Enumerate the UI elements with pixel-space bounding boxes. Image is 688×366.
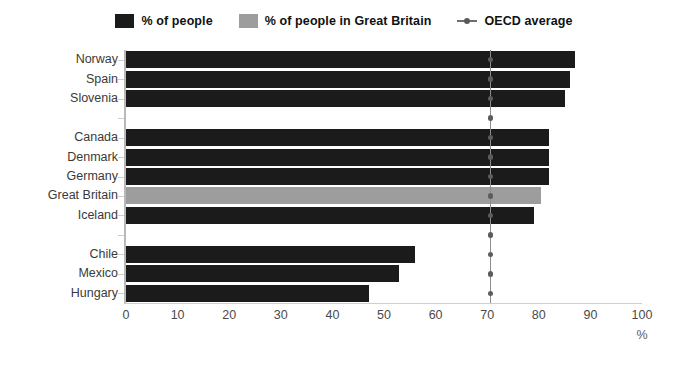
bar-germany[interactable] xyxy=(126,168,549,185)
bar-norway[interactable] xyxy=(126,51,575,68)
category-label-great-britain: Great Britain xyxy=(12,187,118,204)
x-axis-tick-label-50: 50 xyxy=(377,308,391,322)
x-axis-tick-label-90: 90 xyxy=(583,308,597,322)
y-axis-tick xyxy=(118,118,124,119)
oecd-average-marker xyxy=(488,154,494,160)
oecd-average-marker xyxy=(488,115,494,121)
bar-great-britain[interactable] xyxy=(126,187,541,204)
y-axis-tick xyxy=(118,215,124,216)
legend-item-percent-of-people[interactable]: % of people xyxy=(115,14,212,28)
legend-label: % of people in Great Britain xyxy=(265,14,432,28)
category-label-spain: Spain xyxy=(12,71,118,88)
category-label-hungary: Hungary xyxy=(12,285,118,302)
x-axis-tick-label-30: 30 xyxy=(274,308,288,322)
category-label-slovenia: Slovenia xyxy=(12,90,118,107)
chart-legend: % of people % of people in Great Britain… xyxy=(0,14,688,28)
chart-container: % of people % of people in Great Britain… xyxy=(0,0,688,366)
y-axis-tick xyxy=(118,235,124,236)
y-axis-tick xyxy=(118,79,124,80)
y-axis-tick xyxy=(118,254,124,255)
legend-label: OECD average xyxy=(484,14,572,28)
category-label-chile: Chile xyxy=(12,246,118,263)
y-axis-tick xyxy=(118,196,124,197)
oecd-average-marker xyxy=(488,232,494,238)
legend-label: % of people xyxy=(141,14,212,28)
x-axis-tick-label-70: 70 xyxy=(480,308,494,322)
bar-hungary[interactable] xyxy=(126,285,369,302)
plot-area: NorwaySpainSloveniaCanadaDenmarkGermanyG… xyxy=(126,50,642,303)
oecd-average-marker xyxy=(488,271,494,277)
legend-item-oecd-average[interactable]: OECD average xyxy=(457,14,572,28)
y-axis-tick xyxy=(118,293,124,294)
bar-mexico[interactable] xyxy=(126,265,399,282)
line-dot-marker-icon xyxy=(457,14,477,28)
y-axis-tick xyxy=(118,60,124,61)
bar-slovenia[interactable] xyxy=(126,90,565,107)
y-axis-tick xyxy=(118,177,124,178)
category-label-denmark: Denmark xyxy=(12,149,118,166)
oecd-average-marker xyxy=(488,291,494,297)
x-axis-tick-label-10: 10 xyxy=(171,308,185,322)
x-axis-tick-label-80: 80 xyxy=(532,308,546,322)
x-axis-tick-label-40: 40 xyxy=(325,308,339,322)
x-axis-tick-label-20: 20 xyxy=(222,308,236,322)
y-axis-tick xyxy=(118,138,124,139)
x-axis-tick-label-100: 100 xyxy=(632,308,653,322)
oecd-average-marker xyxy=(488,252,494,258)
square-swatch-dark-icon xyxy=(115,14,134,28)
x-axis-tick-label-0: 0 xyxy=(123,308,130,322)
category-label-canada: Canada xyxy=(12,129,118,146)
category-label-norway: Norway xyxy=(12,51,118,68)
x-axis-unit-label: % xyxy=(636,328,647,342)
category-label-germany: Germany xyxy=(12,168,118,185)
x-axis-tick-label-60: 60 xyxy=(429,308,443,322)
y-axis-tick xyxy=(118,157,124,158)
legend-item-percent-great-britain[interactable]: % of people in Great Britain xyxy=(239,14,432,28)
bar-iceland[interactable] xyxy=(126,207,534,224)
category-label-mexico: Mexico xyxy=(12,265,118,282)
oecd-average-marker xyxy=(488,193,494,199)
bar-denmark[interactable] xyxy=(126,149,549,166)
x-axis-line xyxy=(124,303,642,305)
bar-chile[interactable] xyxy=(126,246,415,263)
category-label-iceland: Iceland xyxy=(12,207,118,224)
y-axis-tick xyxy=(118,274,124,275)
y-axis-tick xyxy=(118,99,124,100)
bar-spain[interactable] xyxy=(126,71,570,88)
bar-canada[interactable] xyxy=(126,129,549,146)
square-swatch-gray-icon xyxy=(239,14,258,28)
